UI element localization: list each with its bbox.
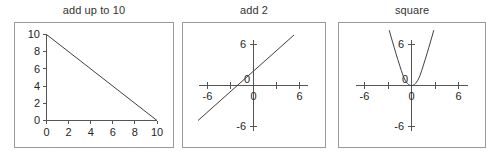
x-tick-label: 4 xyxy=(88,126,94,138)
x-tick-label: 10 xyxy=(151,126,163,138)
data-curve-add-2 xyxy=(198,35,294,121)
y-tick-label: 8 xyxy=(34,45,40,57)
panel-title: square xyxy=(338,4,486,17)
y-tick-label: 0 xyxy=(34,114,40,126)
plot-area-add-2: -6 6 0 6 -6 0 xyxy=(182,22,326,148)
x-tick-label: 6 xyxy=(455,90,461,102)
panel-add-up-to-10: add up to 10 0 2 4 6 8 xyxy=(14,0,174,162)
x-tick-label: 2 xyxy=(66,126,72,138)
x-tick-label: 8 xyxy=(132,126,138,138)
y-tick-label: -6 xyxy=(236,120,246,132)
plot-area-square: -6 6 0 6 -6 0 xyxy=(338,22,486,148)
y-tick-label: 6 xyxy=(240,38,246,50)
data-curve-add-up-to-10 xyxy=(47,35,158,121)
plot-area-add-up-to-10: 0 2 4 6 8 10 0 2 4 6 8 10 xyxy=(14,22,174,148)
y-tick-label: -6 xyxy=(394,120,404,132)
panel-title: add 2 xyxy=(182,4,326,17)
x-origin-label: 0 xyxy=(408,90,414,102)
y-tick-label: 2 xyxy=(34,97,40,109)
y-tick-label: 6 xyxy=(398,38,404,50)
x-tick-label: 6 xyxy=(110,126,116,138)
figure-container: add up to 10 0 2 4 6 8 xyxy=(0,0,499,162)
x-tick-label: -6 xyxy=(203,90,213,102)
x-origin-label: 0 xyxy=(250,90,256,102)
x-tick-label: 6 xyxy=(296,90,302,102)
x-tick-label: 0 xyxy=(43,126,49,138)
panel-add-2: add 2 -6 6 0 6 -6 0 xyxy=(182,0,326,162)
panel-square: square -6 6 0 6 -6 0 xyxy=(338,0,486,162)
y-tick-label: 6 xyxy=(34,63,40,75)
panel-title: add up to 10 xyxy=(14,4,174,17)
y-tick-label: 10 xyxy=(28,28,40,40)
x-tick-label: -6 xyxy=(360,90,370,102)
y-tick-label: 4 xyxy=(34,80,40,92)
